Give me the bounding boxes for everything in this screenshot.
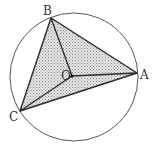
label-c: C: [9, 110, 18, 124]
diagram-canvas: B O A C: [0, 0, 156, 145]
label-a: A: [139, 68, 149, 82]
geometry-diagram: B O A C: [0, 0, 156, 145]
label-o: O: [61, 69, 71, 83]
center-point-o: [70, 74, 73, 77]
label-b: B: [43, 4, 52, 18]
